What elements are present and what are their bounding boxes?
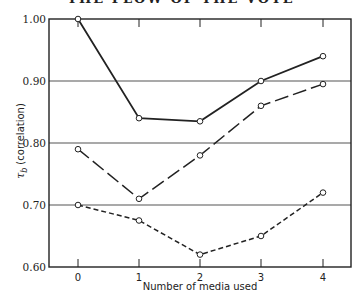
data-point-marker — [320, 53, 326, 59]
data-series — [75, 16, 326, 257]
y-axis-tick-labels: 1.000.900.800.700.60 — [23, 13, 46, 273]
x-tick-label: 1 — [136, 272, 142, 283]
data-point-marker — [136, 218, 142, 224]
data-point-marker — [75, 202, 81, 208]
x-axis-label: Number of media used — [143, 281, 258, 292]
data-point-marker — [320, 190, 326, 196]
series-long-dashed — [75, 81, 326, 201]
y-tick-label: 0.80 — [23, 137, 46, 149]
y-tick-label: 0.70 — [23, 199, 46, 211]
series-line — [78, 193, 323, 255]
series-line — [78, 84, 323, 199]
series-line — [78, 19, 323, 121]
x-tick-label: 0 — [75, 272, 81, 283]
y-tick-label: 1.00 — [23, 13, 46, 25]
data-point-marker — [136, 115, 142, 121]
line-chart: 1.000.900.800.700.60 01234 Number of med… — [0, 0, 362, 299]
data-point-marker — [258, 233, 264, 239]
data-point-marker — [75, 146, 81, 152]
data-point-marker — [258, 78, 264, 84]
gridlines — [49, 81, 351, 205]
series-short-dashed — [75, 190, 326, 258]
y-tick-label: 0.60 — [23, 261, 46, 273]
data-point-marker — [197, 119, 203, 125]
y-axis-label-subscript: b — [20, 168, 29, 173]
y-tick-label: 0.90 — [23, 75, 46, 87]
data-point-marker — [197, 153, 203, 159]
data-point-marker — [75, 16, 81, 22]
series-solid — [75, 16, 326, 124]
x-tick-label: 4 — [320, 272, 326, 283]
data-point-marker — [136, 196, 142, 202]
x-tick-label: 3 — [258, 272, 264, 283]
data-point-marker — [258, 103, 264, 109]
data-point-marker — [320, 81, 326, 87]
y-axis-label-text: (correlation) — [15, 103, 26, 165]
data-point-marker — [197, 252, 203, 258]
